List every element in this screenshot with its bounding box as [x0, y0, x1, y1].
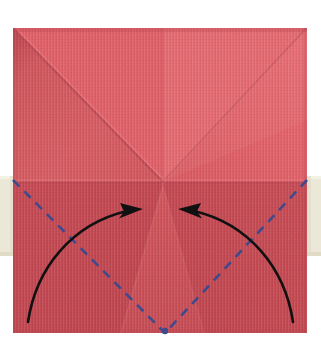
tape-strip-right	[307, 176, 321, 256]
paper-grain-texture	[13, 28, 307, 333]
origami-diagram: Origami fold step diagram A square sheet…	[0, 0, 321, 351]
fold-lines-apex	[162, 328, 168, 334]
origami-paper	[13, 27, 307, 333]
diagram-canvas: Origami fold step diagram A square sheet…	[0, 0, 321, 351]
tape-strip-left	[0, 176, 14, 256]
